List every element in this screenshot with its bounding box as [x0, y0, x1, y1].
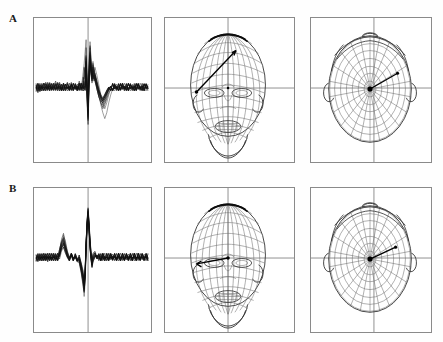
waveform-plot-b [34, 188, 151, 332]
waveform-panel-a [33, 17, 152, 163]
head-axial-mesh-a [311, 18, 431, 162]
head-frontal-mesh-a [165, 18, 294, 162]
head-axial-panel-b [310, 187, 432, 333]
dipole-a-front [195, 51, 236, 94]
panel-label-a: A [9, 13, 17, 24]
waveform-traces-b [36, 208, 148, 297]
head-axial-mesh-b [311, 188, 431, 332]
panel-label-b: B [9, 183, 16, 194]
waveform-traces-a [36, 40, 148, 125]
head-frontal-mesh-b [165, 188, 294, 332]
head-frontal-panel-b [164, 187, 295, 333]
waveform-plot-a [34, 18, 151, 162]
figure-root: A [0, 0, 443, 342]
waveform-panel-b [33, 187, 152, 333]
head-frontal-panel-a [164, 17, 295, 163]
head-axial-panel-a [310, 17, 432, 163]
